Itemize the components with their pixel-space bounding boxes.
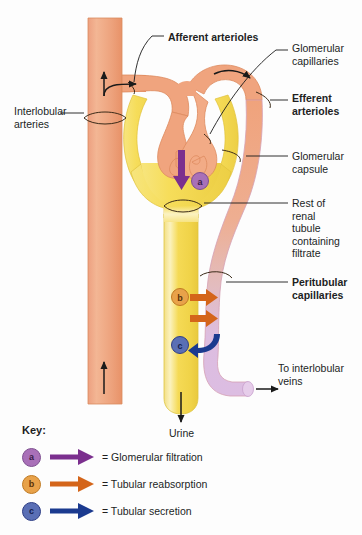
key-badge-a: a	[22, 448, 41, 467]
label-interlobular-arteries: Interlobular arteries	[14, 105, 67, 130]
nephron-diagram-page: a b c Afferent arterioles Glomerular cap…	[0, 0, 362, 535]
key-item-c: c = Tubular secretion	[22, 499, 262, 523]
key-label-reabsorption: = Tubular reabsorption	[102, 478, 207, 490]
label-glomerular-capsule: Glomerular capsule	[292, 150, 344, 175]
key-title: Key:	[22, 424, 262, 436]
key-arrow-filtration	[48, 448, 96, 466]
label-to-interlobular-veins: To interlobular veins	[278, 362, 344, 387]
label-efferent-arterioles: Efferent arterioles	[292, 92, 339, 117]
key-badge-c: c	[22, 502, 41, 521]
key-item-b: b = Tubular reabsorption	[22, 472, 262, 496]
key-item-a: a = Glomerular filtration	[22, 445, 262, 469]
label-peritubular-capillaries: Peritubular capillaries	[292, 276, 347, 301]
marker-c-letter: c	[177, 341, 182, 351]
marker-b-letter: b	[177, 293, 183, 303]
key-arrow-reabsorption	[48, 475, 96, 493]
key-arrow-secretion	[48, 502, 96, 520]
label-afferent-arterioles: Afferent arterioles	[168, 31, 258, 44]
key-label-filtration: = Glomerular filtration	[102, 451, 203, 463]
label-glomerular-capillaries: Glomerular capillaries	[292, 42, 344, 67]
label-rest-of-renal-tubule: Rest of renal tubule containing filtrate	[292, 197, 340, 260]
key-label-secretion: = Tubular secretion	[102, 505, 192, 517]
key-legend: Key: a = Glomerular filtration b = Tubul…	[22, 424, 262, 526]
key-badge-b: b	[22, 475, 41, 494]
renal-tubule-shaft	[164, 206, 198, 414]
